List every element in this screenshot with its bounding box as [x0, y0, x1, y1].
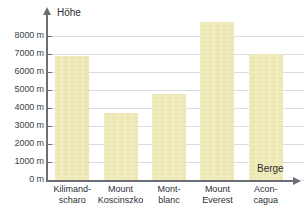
y-axis-tick [48, 126, 52, 127]
y-axis-tick-label-wrap: 0 m [0, 175, 44, 184]
y-axis-tick [48, 162, 52, 163]
y-axis-tick-label: 5000 m [0, 85, 44, 94]
y-axis-tick-label: 8000 m [0, 31, 44, 40]
y-axis-tick [48, 144, 52, 145]
bar-chart: 0 m1000 m2000 m3000 m4000 m5000 m6000 m7… [0, 0, 308, 211]
y-axis-tick-label-wrap: 8000 m [0, 31, 44, 40]
y-axis-tick-label-wrap: 3000 m [0, 121, 44, 130]
y-axis-tick-label-wrap: 1000 m [0, 157, 44, 166]
x-axis-category-label: Acon-cagua [238, 184, 294, 206]
y-axis-tick-label-wrap: 6000 m [0, 67, 44, 76]
y-axis-line [46, 14, 48, 181]
y-axis-tick-label: 3000 m [0, 121, 44, 130]
y-axis-tick [48, 108, 52, 109]
y-axis-tick-label-wrap: 4000 m [0, 103, 44, 112]
bar [104, 113, 138, 180]
gridline [47, 36, 304, 37]
y-axis-tick-label: 4000 m [0, 103, 44, 112]
y-axis-tick [48, 72, 52, 73]
bar [249, 54, 283, 180]
x-axis-category-label-line: Acon- [238, 184, 294, 195]
y-axis-arrow-icon [43, 7, 51, 15]
y-axis-tick-label: 6000 m [0, 67, 44, 76]
x-axis-arrow-icon [293, 177, 301, 185]
y-axis-tick [48, 90, 52, 91]
bar [152, 94, 186, 180]
y-axis-tick-label: 0 m [0, 175, 44, 184]
y-axis-tick-label: 2000 m [0, 139, 44, 148]
bar [55, 56, 89, 180]
y-axis-tick-label-wrap: 7000 m [0, 49, 44, 58]
y-axis-tick-label-wrap: 5000 m [0, 85, 44, 94]
y-axis-title: Höhe [57, 7, 81, 18]
y-axis-tick [48, 36, 52, 37]
x-axis-line [46, 180, 294, 182]
x-axis-title: Berge [257, 163, 284, 174]
y-axis-tick [48, 54, 52, 55]
x-axis-category-label-line: cagua [238, 195, 294, 206]
y-axis-tick-label-wrap: 2000 m [0, 139, 44, 148]
bar [200, 22, 234, 180]
y-axis-tick-label: 7000 m [0, 49, 44, 58]
y-axis-tick-label: 1000 m [0, 157, 44, 166]
